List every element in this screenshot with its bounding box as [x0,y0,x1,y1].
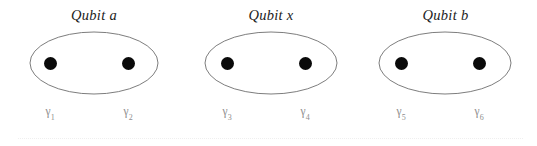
gamma-subscript-1: 1 [51,113,55,122]
gamma-label-1: γ1 [45,105,54,120]
gamma-label-6: γ6 [474,105,483,120]
majorana-dot-gamma-5 [395,57,408,70]
qubit-title-x: Qubit x [204,7,338,24]
qubit-title-a: Qubit a [29,7,159,24]
gamma-subscript-6: 6 [480,113,484,122]
gamma-subscript-4: 4 [306,113,310,122]
majorana-dot-gamma-3 [221,57,234,70]
majorana-dot-gamma-6 [473,57,486,70]
gamma-subscript-3: 3 [228,113,232,122]
gamma-subscript-5: 5 [402,113,406,122]
qubit-group-x: Qubit x γ3 γ4 [204,0,338,146]
gamma-subscript-2: 2 [129,113,133,122]
gamma-label-4: γ4 [300,105,309,120]
baseline-rule [18,138,523,139]
majorana-qubit-diagram: Qubit a γ1 γ2 Qubit x γ3 γ4 [0,0,537,146]
gamma-label-3: γ3 [222,105,231,120]
qubit-group-b: Qubit b γ5 γ6 [378,0,513,146]
majorana-dot-gamma-1 [44,57,57,70]
majorana-dot-gamma-2 [122,57,135,70]
gamma-label-2: γ2 [123,105,132,120]
gamma-label-5: γ5 [396,105,405,120]
qubit-group-a: Qubit a γ1 γ2 [29,0,159,146]
majorana-dot-gamma-4 [299,57,312,70]
qubit-title-b: Qubit b [378,7,513,24]
